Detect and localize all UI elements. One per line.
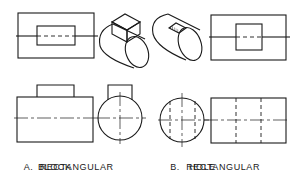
caption-b-line2: HOLE (189, 162, 216, 172)
block-top-view (16, 13, 98, 58)
caption-a-line2: BLOCK (38, 162, 72, 172)
hole-front-view (204, 98, 290, 143)
block-side-view (96, 85, 146, 144)
hole-top-view (209, 15, 290, 60)
caption-a-letter: A. (24, 162, 34, 172)
block-front-view (14, 85, 96, 142)
caption-b-letter: B. (170, 162, 180, 172)
hole-side-view (158, 93, 209, 147)
hole-isometric-view (138, 14, 207, 64)
